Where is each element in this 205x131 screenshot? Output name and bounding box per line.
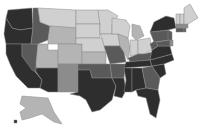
- state-fl: [136, 88, 160, 118]
- state-nm: [58, 64, 78, 92]
- state-vt: [176, 14, 180, 24]
- state-hi: [14, 120, 17, 123]
- state-nd: [76, 10, 100, 24]
- states-layer: [4, 4, 198, 124]
- state-ny: [150, 16, 176, 32]
- state-ks: [82, 52, 106, 64]
- state-de: [170, 40, 173, 46]
- state-ri: [184, 28, 186, 32]
- us-choropleth-map: [0, 0, 205, 131]
- state-oh: [138, 38, 152, 54]
- state-ar: [110, 64, 126, 78]
- state-ct: [176, 28, 184, 32]
- state-wy: [48, 26, 76, 44]
- state-me: [184, 4, 198, 24]
- state-sd: [76, 24, 100, 38]
- state-nh: [180, 14, 184, 24]
- state-ms: [124, 68, 132, 92]
- state-ak: [20, 96, 62, 124]
- state-in: [130, 40, 138, 56]
- state-ma: [176, 24, 188, 28]
- state-ut: [36, 44, 58, 68]
- state-co: [58, 44, 82, 64]
- state-mi: [132, 24, 144, 40]
